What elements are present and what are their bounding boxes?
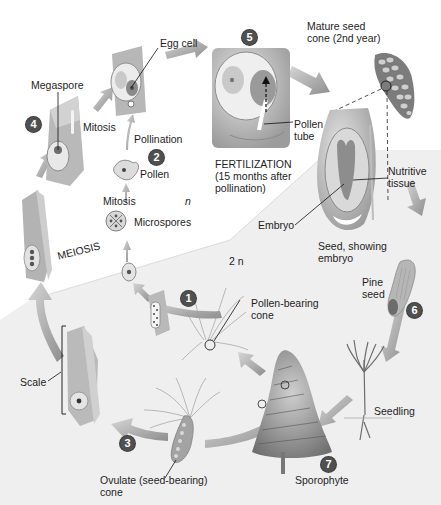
label-scale: Scale bbox=[20, 376, 46, 388]
label-seed-showing-embryo: Seed, showing embryo bbox=[318, 240, 387, 264]
step-badge-7: 7 bbox=[321, 457, 336, 472]
microspores-tetrad bbox=[106, 211, 126, 231]
arrow-cell-to-microspores bbox=[123, 240, 131, 262]
label-seedling: Seedling bbox=[374, 405, 415, 417]
label-egg-cell: Egg cell bbox=[160, 37, 197, 49]
label-diploid-2n: 2 n bbox=[229, 255, 244, 267]
label-microspores: Microspores bbox=[134, 216, 191, 228]
label-diploid-2n-text: 2 n bbox=[229, 255, 244, 267]
label-pine-seed: Pine seed bbox=[362, 276, 385, 300]
arrow-fertilization-to-seed bbox=[288, 66, 330, 95]
megaspore-ovule bbox=[46, 92, 84, 186]
label-pollen: Pollen bbox=[140, 168, 169, 180]
step-badge-5: 5 bbox=[242, 30, 257, 45]
step-badge-4: 4 bbox=[26, 117, 41, 132]
step-badge-6: 6 bbox=[407, 303, 422, 318]
step-badge-1: 1 bbox=[181, 291, 196, 306]
label-megaspore: Megaspore bbox=[31, 79, 84, 91]
label-sporophyte: Sporophyte bbox=[295, 474, 349, 486]
label-haploid-n: n bbox=[185, 195, 191, 207]
arrow-megaspore-to-egg bbox=[93, 87, 113, 112]
step-badge-2: 2 bbox=[149, 150, 164, 165]
meiosis-scale bbox=[22, 190, 52, 282]
label-pollination: Pollination bbox=[134, 133, 182, 145]
egg-cell-ovule bbox=[111, 46, 158, 116]
diploid-region bbox=[0, 150, 441, 505]
label-ovulate-cone: Ovulate (seed-bearing) cone bbox=[100, 474, 207, 498]
label-fertilization: FERTILIZATION (15 months after pollinati… bbox=[215, 158, 292, 194]
label-mature-seed-cone: Mature seed cone (2nd year) bbox=[307, 20, 381, 44]
label-pollen-bearing-cone: Pollen-bearing cone bbox=[251, 297, 319, 321]
fertilization-ovule bbox=[212, 48, 293, 148]
label-pollen-tube: Pollen tube bbox=[294, 118, 323, 142]
label-mitosis-mid: Mitosis bbox=[103, 195, 136, 207]
pollen-grain bbox=[114, 160, 139, 180]
step-badge-3: 3 bbox=[120, 436, 135, 451]
label-mitosis-top: Mitosis bbox=[83, 121, 116, 133]
microsporocyte-cell bbox=[122, 263, 136, 281]
label-embryo: Embryo bbox=[258, 219, 294, 231]
label-nutritive-tissue: Nutritive tissue bbox=[388, 165, 427, 189]
